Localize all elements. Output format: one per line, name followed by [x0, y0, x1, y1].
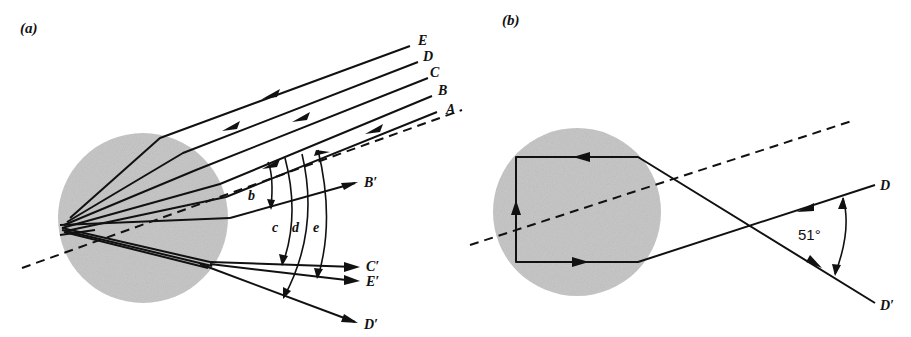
outgoing-arrowheads-a — [341, 182, 360, 323]
label-e-prime: E′ — [365, 274, 379, 289]
label-e: E — [417, 33, 427, 48]
angle-label-b: b — [248, 188, 255, 203]
label-d-b: D — [879, 178, 890, 193]
angle-label-d: d — [292, 220, 300, 235]
label-d-prime-b: D′ — [879, 298, 894, 313]
label-b: B — [437, 83, 447, 98]
angle-label-51: 51° — [798, 226, 821, 243]
label-b-prime: B′ — [363, 175, 377, 190]
label-a: A — [445, 102, 455, 117]
panel-b: (b) 51° D D′ — [470, 12, 894, 313]
panel-b-label: (b) — [502, 12, 520, 29]
angle-label-c: c — [272, 220, 279, 235]
label-c-prime: C′ — [366, 259, 379, 274]
label-d: D — [422, 49, 433, 64]
rainbow-ray-diagram: (a) — [0, 0, 911, 337]
angle-arc-e — [318, 150, 327, 277]
water-droplet-a — [58, 133, 228, 303]
label-c: C — [430, 65, 440, 80]
label-d-prime: D′ — [363, 317, 378, 332]
panel-a-label: (a) — [20, 20, 38, 37]
angle-arc-51 — [835, 198, 846, 274]
angle-label-e: e — [313, 220, 319, 235]
panel-a: (a) — [20, 20, 462, 332]
